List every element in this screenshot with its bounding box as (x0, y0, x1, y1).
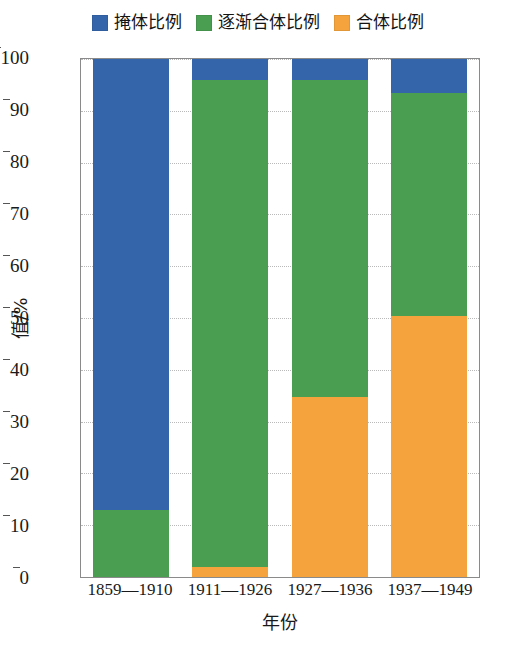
x-tick-label: 1937—1949 (380, 580, 480, 600)
bar-slot (280, 59, 380, 577)
bar-segment[interactable] (292, 397, 368, 577)
chart-legend: 掩体比例 逐渐合体比例 合体比例 (0, 14, 515, 31)
x-tick-label: 1911—1926 (180, 580, 280, 600)
chart-figure: 掩体比例 逐渐合体比例 合体比例 值/% 0102030405060708090… (0, 0, 515, 649)
plot-area (80, 58, 480, 578)
legend-item-blue: 掩体比例 (92, 14, 182, 31)
bar-segment[interactable] (292, 59, 368, 80)
stacked-bar[interactable] (192, 59, 268, 577)
bar-segment[interactable] (391, 93, 467, 317)
x-axis-ticks: 1859—19101911—19261927—19361937—1949 (80, 580, 480, 600)
legend-label-blue: 掩体比例 (114, 14, 182, 31)
legend-swatch-green (196, 15, 212, 31)
y-tick-mark-0 (13, 567, 20, 568)
bar-segment[interactable] (192, 567, 268, 577)
y-tick-mark-90 (3, 99, 10, 100)
bar-segment[interactable] (192, 59, 268, 80)
y-tick-label-20: 20 (10, 463, 29, 485)
legend-item-orange: 合体比例 (334, 14, 424, 31)
bar-segment[interactable] (292, 80, 368, 397)
y-tick-mark-20 (3, 463, 10, 464)
stacked-bar[interactable] (292, 59, 368, 577)
y-tick-label-60: 60 (10, 255, 29, 277)
y-tick-mark-70 (3, 203, 10, 204)
y-tick-label-100: 100 (1, 47, 30, 69)
y-tick-label-40: 40 (10, 359, 29, 381)
y-tick-mark-80 (3, 151, 10, 152)
y-tick-mark-100 (0, 47, 1, 48)
x-axis-title: 年份 (80, 608, 480, 634)
y-tick-label-70: 70 (10, 203, 29, 225)
x-tick-label: 1859—1910 (80, 580, 180, 600)
bar-segment[interactable] (93, 59, 169, 510)
y-tick-label-50: 50 (10, 307, 29, 329)
y-tick-label-30: 30 (10, 411, 29, 433)
y-tick-mark-60 (3, 255, 10, 256)
y-tick-label-90: 90 (10, 99, 29, 121)
legend-swatch-orange (334, 15, 350, 31)
bar-segment[interactable] (192, 80, 268, 567)
bar-slot (380, 59, 480, 577)
y-tick-mark-30 (3, 411, 10, 412)
legend-item-green: 逐渐合体比例 (196, 14, 320, 31)
bar-segment[interactable] (93, 510, 169, 577)
bar-slot (181, 59, 281, 577)
legend-label-orange: 合体比例 (356, 14, 424, 31)
bar-slot (81, 59, 181, 577)
y-tick-mark-50 (3, 307, 10, 308)
y-tick-label-10: 10 (10, 515, 29, 537)
legend-label-green: 逐渐合体比例 (218, 14, 320, 31)
y-tick-label-0: 0 (20, 567, 30, 589)
x-tick-label: 1927—1936 (280, 580, 380, 600)
bar-group (81, 59, 479, 577)
stacked-bar[interactable] (93, 59, 169, 577)
y-tick-mark-40 (3, 359, 10, 360)
legend-swatch-blue (92, 15, 108, 31)
stacked-bar[interactable] (391, 59, 467, 577)
bar-segment[interactable] (391, 316, 467, 577)
y-tick-mark-10 (3, 515, 10, 516)
bar-segment[interactable] (391, 59, 467, 93)
y-tick-label-80: 80 (10, 151, 29, 173)
